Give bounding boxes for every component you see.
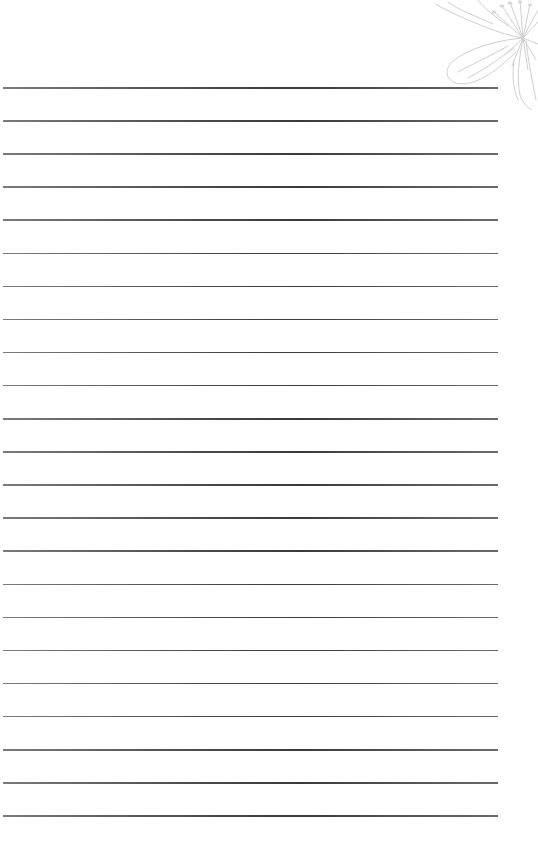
ruled-line [3, 352, 498, 354]
ruled-line [3, 815, 498, 817]
ruled-line [3, 650, 498, 652]
ruled-line [3, 517, 498, 519]
ruled-line [3, 253, 498, 255]
ruled-line [3, 319, 498, 321]
lined-paper-page [0, 0, 538, 867]
ruled-line [3, 120, 498, 122]
ruled-line [3, 186, 498, 188]
ruled-line [3, 617, 498, 619]
ruled-line [3, 219, 498, 221]
ruled-line [3, 716, 498, 718]
ruled-line [3, 683, 498, 685]
ruled-line [3, 782, 498, 784]
ruled-line [3, 385, 498, 387]
ruled-line [3, 484, 498, 486]
ruled-line [3, 418, 498, 420]
flower-line-art-icon [428, 0, 538, 110]
ruled-line [3, 584, 498, 586]
ruled-line [3, 451, 498, 453]
ruled-line [3, 87, 498, 89]
ruled-line [3, 550, 498, 552]
ruled-line [3, 153, 498, 155]
ruled-line [3, 749, 498, 751]
ruled-line [3, 286, 498, 288]
